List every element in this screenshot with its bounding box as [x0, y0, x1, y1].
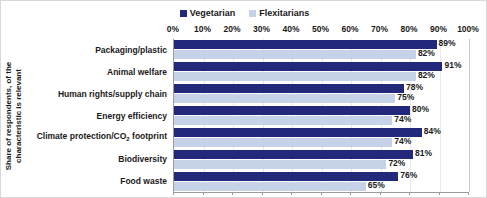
x-axis-tickmark	[321, 192, 322, 195]
y-axis-title: Share of respondents, of the characteris…	[3, 39, 25, 192]
category-label-4: Climate protection/CO2 footprint	[37, 131, 167, 143]
bar-flexitarians-2	[174, 94, 395, 103]
bar-value-label: 74%	[394, 137, 411, 146]
bar-flexitarians-6	[174, 182, 366, 191]
category-label-3: Energy efficiency	[97, 110, 167, 121]
bar-vegetarian-0	[174, 40, 437, 49]
x-axis-tick-label: 90%	[430, 24, 447, 35]
category-label-2: Human rights/supply chain	[58, 88, 167, 99]
bar-value-label: 80%	[412, 105, 429, 114]
x-axis-tick-label: 0%	[167, 24, 179, 35]
x-axis-tickmark	[439, 192, 440, 195]
x-axis-tickmark	[203, 192, 204, 195]
gridline	[469, 39, 470, 192]
bar-value-label: 91%	[444, 61, 461, 70]
x-axis-tick-label: 10%	[194, 24, 211, 35]
bar-vegetarian-1	[174, 62, 442, 71]
bar-vegetarian-4	[174, 128, 422, 137]
bar-value-label: 78%	[406, 83, 423, 92]
x-axis-tick-labels: 0%10%20%30%40%50%60%70%80%90%100%	[173, 24, 468, 36]
plot-area: 89%82%91%82%78%75%80%74%84%74%81%72%76%6…	[173, 39, 469, 193]
bar-value-label: 82%	[418, 71, 435, 80]
bar-flexitarians-0	[174, 50, 416, 59]
x-axis-tickmark	[262, 192, 263, 195]
x-axis-tickmark	[350, 192, 351, 195]
x-axis-tick-label: 40%	[282, 24, 299, 35]
x-axis-tickmark	[291, 192, 292, 195]
bar-value-label: 81%	[415, 149, 432, 158]
x-axis-tickmarks	[173, 192, 468, 196]
bar-vegetarian-6	[174, 172, 398, 181]
legend-swatch-icon	[249, 10, 256, 17]
bar-flexitarians-4	[174, 138, 392, 147]
x-axis-tick-label: 80%	[400, 24, 417, 35]
bar-value-label: 76%	[400, 171, 417, 180]
legend-item-vegetarian[interactable]: Vegetarian	[180, 8, 236, 18]
x-axis-tick-label: 60%	[341, 24, 358, 35]
category-label-5: Biodiversity	[118, 154, 167, 165]
bar-value-label: 65%	[368, 181, 385, 190]
bar-vegetarian-5	[174, 150, 413, 159]
y-axis-title-line-1: Share of respondents, of the	[4, 61, 14, 169]
bar-value-label: 75%	[397, 93, 414, 102]
category-label-0: Packaging/plastic	[95, 44, 167, 55]
bar-vegetarian-2	[174, 84, 404, 93]
category-label-1: Animal welfare	[107, 66, 167, 77]
chart-legend: VegetarianFlexitarians	[1, 6, 487, 20]
x-axis-tickmark	[409, 192, 410, 195]
x-axis-tick-label: 100%	[457, 24, 479, 35]
bar-value-label: 72%	[388, 159, 405, 168]
legend-swatch-icon	[180, 10, 187, 17]
x-axis-tick-label: 50%	[312, 24, 329, 35]
bar-value-label: 89%	[439, 39, 456, 48]
bar-value-label: 82%	[418, 49, 435, 58]
bar-flexitarians-5	[174, 160, 386, 169]
x-axis-tickmark	[232, 192, 233, 195]
x-axis-tick-label: 70%	[371, 24, 388, 35]
x-axis-tick-label: 30%	[253, 24, 270, 35]
legend-item-label: Flexitarians	[259, 8, 309, 18]
legend-item-flexitarians[interactable]: Flexitarians	[249, 8, 309, 18]
bar-flexitarians-1	[174, 72, 416, 81]
bar-value-label: 84%	[424, 127, 441, 136]
legend-item-label: Vegetarian	[190, 8, 236, 18]
y-axis-title-line-2: characteristic is relevant	[14, 61, 24, 169]
x-axis-tickmark	[173, 192, 174, 195]
x-axis-tickmark	[468, 192, 469, 195]
bar-flexitarians-3	[174, 116, 392, 125]
bar-vegetarian-3	[174, 106, 410, 115]
chart-container: VegetarianFlexitarians Share of responde…	[0, 0, 487, 198]
x-axis-tick-label: 20%	[223, 24, 240, 35]
category-label-6: Food waste	[120, 176, 167, 187]
x-axis-tickmark	[380, 192, 381, 195]
y-axis-category-labels: Packaging/plasticAnimal welfareHuman rig…	[27, 39, 170, 192]
bar-value-label: 74%	[394, 115, 411, 124]
